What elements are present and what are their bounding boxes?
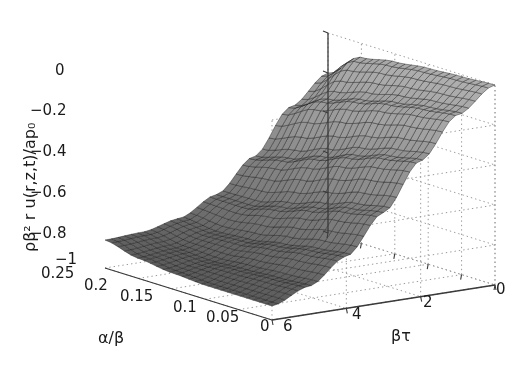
figure-3d-surface-plot: 0 −0.2 −0.4 −0.6 −0.8 −1 0.25 0.2 0.15 0… [0,0,532,374]
z-axis-label: βτ [391,326,411,345]
y-tick-n02: −0.2 [30,101,66,119]
z-tick-6: 6 [283,317,293,335]
x-tick-0: 0 [260,317,270,335]
x-tick-01: 0.1 [173,298,197,316]
z-tick-4: 4 [352,305,362,323]
x-axis-label: α/β [98,328,124,347]
x-tick-005: 0.05 [206,308,239,326]
z-tick-2: 2 [423,293,433,311]
y-tick-0: 0 [55,61,65,79]
z-tick-0: 0 [496,280,506,298]
x-tick-02: 0.2 [84,276,108,294]
x-tick-015: 0.15 [120,287,153,305]
x-tick-025: 0.25 [41,264,74,282]
y-axis-label: ρβ² r u(r,z,t)/ap₀ [20,123,39,252]
